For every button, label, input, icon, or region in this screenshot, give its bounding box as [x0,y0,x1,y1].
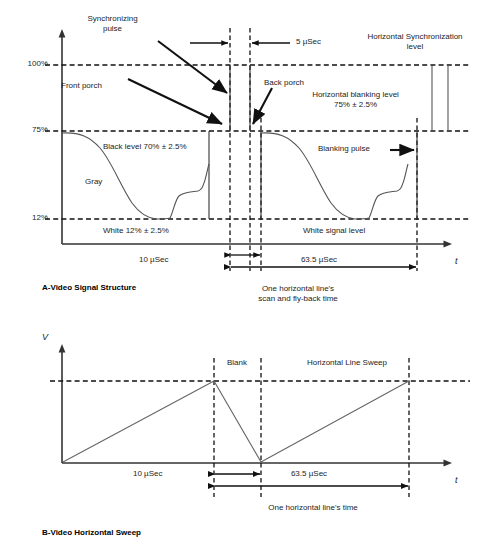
panel-a-blanking-pedestal [209,131,417,219]
label-panel-b-line-time: One horizontal line's time [233,503,393,513]
panel-a-axes [59,29,452,247]
label-blank: Blank [211,358,263,368]
label-black-level: Black level 70% ± 2.5% [103,142,187,152]
label-panel-a-10usec: 10 µSec [139,255,169,265]
panel-b-sawtooth [63,381,409,462]
label-front-porch: Front porch [61,81,102,91]
label-hsync-level: Horizontal Synchronization level [340,32,490,52]
label-gray: Gray [85,177,102,187]
label-5usec: 5 µSec [296,37,321,47]
label-blanking-pulse: Blanking pulse [318,144,370,154]
panel-b-y-axis-label: V [42,332,48,342]
y-tick-12: 12% [8,213,48,223]
label-synchronizing-pulse: Synchronizing pulse [60,14,165,34]
panel-a-sync-pulse-left [230,65,250,131]
label-white-signal-level: White signal level [303,226,365,236]
label-panel-b-10usec: 10 µSec [133,469,163,479]
y-tick-75: 75% [8,125,48,135]
label-line-sweep: Horizontal Line Sweep [277,358,417,368]
label-panel-a-line-time: One horizontal line's scan and fly-back … [238,284,358,304]
panel-a-caption: A-Video Signal Structure [42,283,136,292]
label-white-level: White 12% ± 2.5% [103,226,169,236]
panel-b-x-axis-label: t [455,475,458,485]
label-blanking-level: Horizontal blanking level 75% ± 2.5% [288,90,423,110]
figure-root: 100% 75% 12% Synchronizing pulse Front p… [0,0,493,549]
y-tick-100: 100% [8,59,48,69]
label-panel-b-635usec: 63.5 µSec [276,469,342,479]
panel-a-x-axis-label: t [455,256,458,266]
label-panel-a-635usec: 63.5 µSec [288,255,350,265]
panel-b-caption: B-Video Horizontal Sweep [42,528,141,537]
panel-a-sync-pulse-right [432,65,448,131]
label-back-porch: Back porch [264,78,304,88]
